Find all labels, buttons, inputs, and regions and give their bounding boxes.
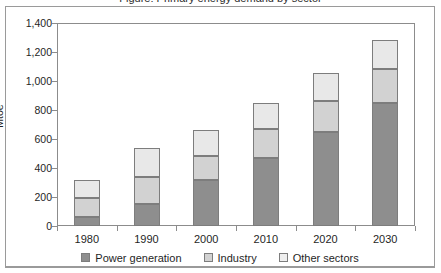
bar-segment[interactable] — [372, 40, 398, 69]
x-axis-tick-mark — [117, 226, 118, 231]
bar-stack[interactable] — [193, 23, 219, 226]
bar-segment[interactable] — [253, 129, 279, 158]
bar-segment[interactable] — [74, 198, 100, 217]
bar-segment[interactable] — [134, 204, 160, 226]
x-axis-tick-mark — [296, 226, 297, 231]
bars-layer — [57, 23, 415, 226]
legend-divider — [5, 266, 435, 267]
bar-segment[interactable] — [313, 132, 339, 226]
x-axis-tick-mark — [176, 226, 177, 231]
bar-segment[interactable] — [313, 73, 339, 101]
cropped-title-text: Figure: Primary energy demand by sector — [119, 0, 321, 4]
bar-segment[interactable] — [193, 156, 219, 180]
bar-segment[interactable] — [372, 69, 398, 102]
y-axis-tick-label: 0 — [6, 221, 52, 231]
x-axis-tick-label: 1980 — [62, 233, 112, 245]
x-axis-tick-label: 2020 — [301, 233, 351, 245]
y-axis-tick-label: 1,400 — [6, 18, 52, 28]
x-axis-tick-mark — [57, 226, 58, 231]
y-axis-tick-label: 1,200 — [6, 47, 52, 57]
x-axis-tick-mark — [355, 226, 356, 231]
x-axis-tick-label: 2030 — [360, 233, 410, 245]
bar-stack[interactable] — [134, 23, 160, 226]
bar-segment[interactable] — [193, 130, 219, 155]
legend-swatch-icon — [204, 253, 213, 262]
bar-segment[interactable] — [134, 177, 160, 205]
bar-segment[interactable] — [313, 101, 339, 131]
x-axis-tick-mark — [415, 226, 416, 231]
y-axis-tick-label: 400 — [6, 163, 52, 173]
bar-segment[interactable] — [253, 103, 279, 129]
bar-stack[interactable] — [74, 23, 100, 226]
legend-swatch-icon — [81, 253, 90, 262]
legend-item[interactable]: Power generation — [81, 252, 181, 264]
bar-stack[interactable] — [313, 23, 339, 226]
bar-stack[interactable] — [253, 23, 279, 226]
figure-panel: Figure: Primary energy demand by sector … — [0, 0, 441, 273]
x-axis-tick-label: 1990 — [122, 233, 172, 245]
y-axis-tick-label: 600 — [6, 134, 52, 144]
x-axis-tick-label: 2010 — [241, 233, 291, 245]
y-axis-tick-label: 800 — [6, 105, 52, 115]
bar-segment[interactable] — [74, 180, 100, 199]
legend-label: Power generation — [95, 252, 181, 264]
chart-legend: Power generationIndustryOther sectors — [5, 249, 435, 266]
y-axis-tick-label: 1,000 — [6, 76, 52, 86]
legend-swatch-icon — [279, 253, 288, 262]
cropped-title: Figure: Primary energy demand by sector — [0, 0, 441, 5]
bar-segment[interactable] — [134, 148, 160, 177]
bar-segment[interactable] — [74, 217, 100, 226]
bar-stack[interactable] — [372, 23, 398, 226]
y-axis: 02004006008001,0001,2001,400 — [0, 23, 52, 226]
x-axis-tick-label: 2000 — [181, 233, 231, 245]
legend-label: Industry — [218, 252, 257, 264]
legend-label: Other sectors — [293, 252, 359, 264]
y-axis-tick-label: 200 — [6, 192, 52, 202]
bar-segment[interactable] — [193, 180, 219, 226]
bar-segment[interactable] — [372, 103, 398, 226]
x-axis-tick-mark — [236, 226, 237, 231]
bar-segment[interactable] — [253, 158, 279, 226]
legend-item[interactable]: Other sectors — [279, 252, 359, 264]
legend-item[interactable]: Industry — [204, 252, 257, 264]
